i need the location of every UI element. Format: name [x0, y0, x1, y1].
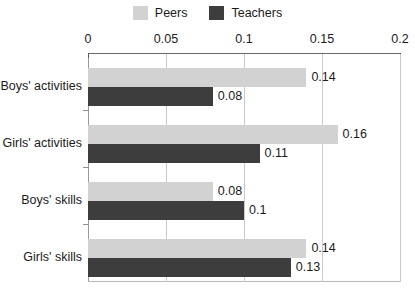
- bar-group-boys-skills: Boys' skills 0.08 0.1: [88, 182, 400, 220]
- legend-swatch-teachers: [209, 6, 224, 20]
- bar-value-peers-girls-skills: 0.14: [306, 239, 335, 258]
- category-label-boys-activities: Boys' activities: [0, 79, 82, 93]
- bar-peers-boys-skills: [88, 182, 213, 201]
- bar-teachers-boys-activities: [88, 87, 213, 106]
- bar-teachers-boys-skills: [88, 201, 244, 220]
- bar-peers-boys-activities: [88, 68, 306, 87]
- bar-row-peers: 0.16: [88, 125, 400, 144]
- bar-group-girls-activities: Girls' activities 0.16 0.11: [88, 125, 400, 163]
- plot-area: Boys' activities 0.14 0.08 Girls' activi…: [88, 54, 400, 282]
- category-label-girls-activities: Girls' activities: [0, 136, 82, 150]
- x-tick-label-2: 0.1: [235, 33, 252, 46]
- bar-value-peers-boys-activities: 0.14: [306, 68, 335, 87]
- bar-row-peers: 0.08: [88, 182, 400, 201]
- x-tick-label-4: 0.2: [391, 33, 408, 46]
- bar-peers-girls-skills: [88, 239, 306, 258]
- bar-row-peers: 0.14: [88, 68, 400, 87]
- bar-row-teachers: 0.08: [88, 87, 400, 106]
- chart-legend: Peers Teachers: [0, 4, 415, 22]
- category-label-girls-skills: Girls' skills: [0, 250, 82, 264]
- bar-value-teachers-boys-activities: 0.08: [213, 87, 242, 106]
- bar-value-teachers-boys-skills: 0.1: [244, 201, 266, 220]
- bar-row-peers: 0.14: [88, 239, 400, 258]
- legend-label-teachers: Teachers: [231, 7, 282, 20]
- bar-row-teachers: 0.13: [88, 258, 400, 277]
- bar-value-peers-girls-activities: 0.16: [338, 125, 367, 144]
- bar-teachers-girls-activities: [88, 144, 260, 163]
- legend-item-peers: Peers: [133, 6, 188, 20]
- bar-chart: Peers Teachers 0 0.05 0.1 0.15 0.2 Boys'…: [0, 0, 415, 294]
- bar-value-teachers-girls-skills: 0.13: [291, 258, 320, 277]
- legend-item-teachers: Teachers: [209, 6, 282, 20]
- bar-group-boys-activities: Boys' activities 0.14 0.08: [88, 68, 400, 106]
- category-label-boys-skills: Boys' skills: [0, 193, 82, 207]
- x-tick-label-0: 0: [85, 33, 92, 46]
- legend-swatch-peers: [133, 6, 148, 20]
- bar-value-teachers-girls-activities: 0.11: [260, 144, 288, 163]
- bar-peers-girls-activities: [88, 125, 338, 144]
- legend-label-peers: Peers: [155, 7, 188, 20]
- bar-row-teachers: 0.11: [88, 144, 400, 163]
- gridline-0.2: [400, 54, 401, 282]
- bar-value-peers-boys-skills: 0.08: [213, 182, 242, 201]
- bar-row-teachers: 0.1: [88, 201, 400, 220]
- bar-teachers-girls-skills: [88, 258, 291, 277]
- bar-group-girls-skills: Girls' skills 0.14 0.13: [88, 239, 400, 277]
- x-tick-label-3: 0.15: [310, 33, 334, 46]
- x-tick-label-1: 0.05: [154, 33, 178, 46]
